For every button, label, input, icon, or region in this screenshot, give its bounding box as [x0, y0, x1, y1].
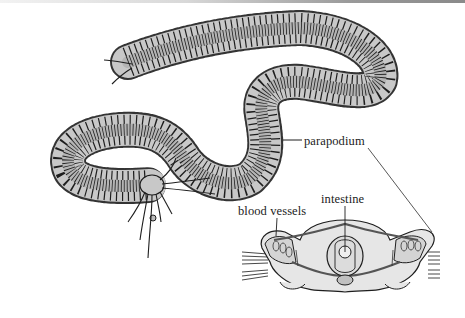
- worm-diagram: [0, 0, 465, 318]
- parapodium-section-leader: [368, 148, 432, 232]
- label-blood-vessels: blood vessels: [238, 204, 306, 219]
- label-intestine: intestine: [321, 192, 364, 207]
- label-parapodium: parapodium: [304, 134, 365, 149]
- worm-body: [68, 28, 380, 186]
